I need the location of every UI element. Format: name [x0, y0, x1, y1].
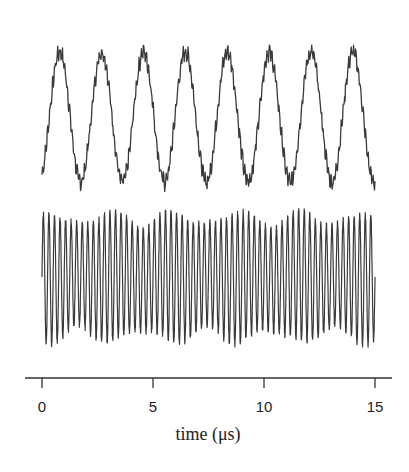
upper-trace-line	[42, 45, 375, 191]
x-axis-title: time (μs)	[175, 424, 240, 445]
x-tick-label-0: 0	[38, 398, 46, 415]
x-tick-label-15: 15	[367, 398, 384, 415]
x-tick-label-5: 5	[149, 398, 157, 415]
x-tick-label-10: 10	[256, 398, 273, 415]
lower-trace-line	[42, 209, 375, 348]
chart: 0 5 10 15 time (μs)	[0, 0, 409, 472]
